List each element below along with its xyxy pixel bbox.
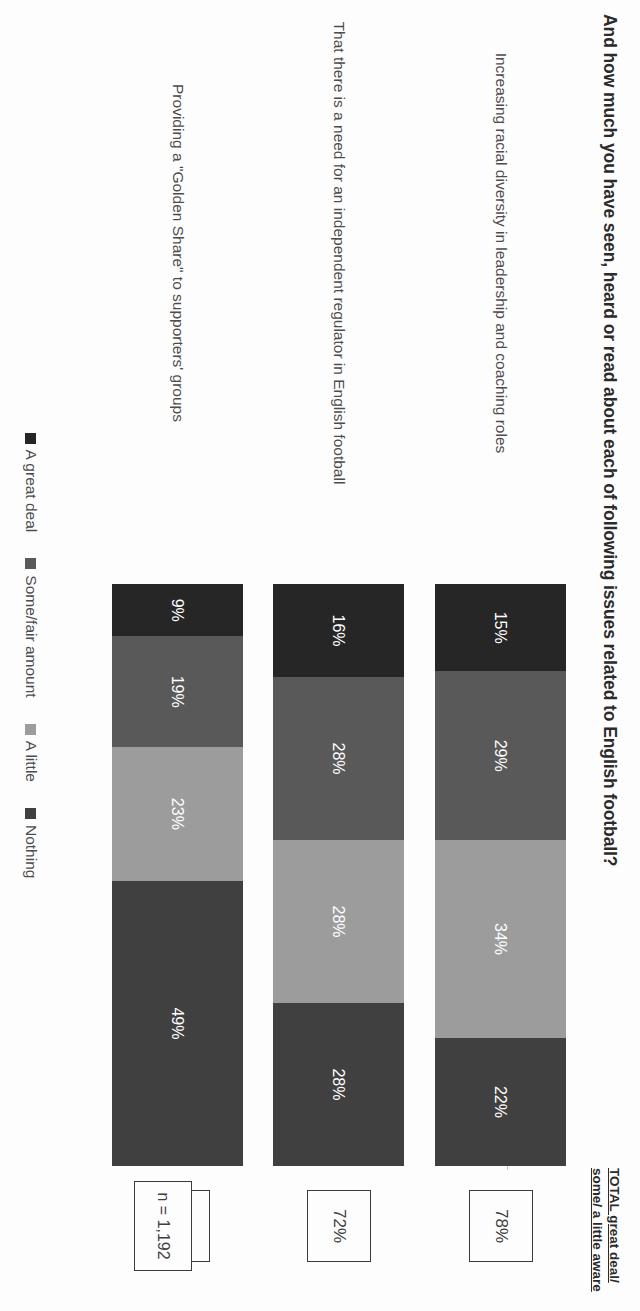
total-aware-box: 72% — [307, 1190, 371, 1262]
bar-segment-a-little[interactable]: 34% — [435, 840, 566, 1038]
chart-legend: A great deal Some/fair amount A little N… — [22, 0, 40, 1311]
legend-item-nothing[interactable]: Nothing — [22, 808, 40, 878]
bar-segment-value: 16% — [330, 615, 348, 647]
bar-segment-value: 28% — [330, 906, 348, 938]
bar-segment-value: 49% — [169, 1007, 187, 1039]
bar-segment-nothing[interactable]: 22% — [435, 1038, 566, 1166]
bar-segment-nothing[interactable]: 28% — [273, 1003, 404, 1166]
stacked-bar: 16% 28% 28% 28% — [273, 584, 404, 1166]
bar-segment-a-great-deal[interactable]: 9% — [112, 584, 243, 636]
bar-segment-a-little[interactable]: 28% — [273, 840, 404, 1003]
slide-canvas: And how much you have seen, heard or rea… — [0, 0, 640, 1311]
bar-segment-value: 28% — [330, 1068, 348, 1100]
bar-segment-value: 15% — [492, 612, 510, 644]
bar-segment-value: 34% — [492, 923, 510, 955]
legend-swatch-icon — [26, 808, 37, 819]
bar-segment-nothing[interactable]: 49% — [112, 881, 243, 1166]
category-label: Increasing racial diversity in leadershi… — [435, 8, 566, 508]
bar-segment-some-fair-amount[interactable]: 28% — [273, 677, 404, 840]
legend-item-some-fair-amount[interactable]: Some/fair amount — [22, 558, 40, 697]
page-title: And how much you have seen, heard or rea… — [599, 14, 620, 1164]
legend-item-a-little[interactable]: A little — [22, 724, 40, 782]
bar-segment-value: 28% — [330, 743, 348, 775]
table-row: Increasing racial diversity in leadershi… — [435, 0, 566, 1311]
chart-plot-area: Increasing racial diversity in leadershi… — [74, 0, 574, 1311]
total-column-header: TOTAL great deal/ some/ a little aware — [588, 1168, 622, 1296]
category-label: Providing a "Golden Share" to supporters… — [112, 8, 243, 508]
legend-label: A great deal — [22, 450, 40, 533]
bar-segment-value: 23% — [169, 798, 187, 830]
bar-segment-some-fair-amount[interactable]: 29% — [435, 671, 566, 840]
bar-segment-a-great-deal[interactable]: 15% — [435, 584, 566, 671]
bar-segment-a-great-deal[interactable]: 16% — [273, 584, 404, 677]
legend-swatch-icon — [26, 724, 37, 735]
category-label: That there is a need for an independent … — [273, 8, 404, 508]
bar-segment-value: 19% — [169, 676, 187, 708]
legend-swatch-icon — [26, 558, 37, 569]
legend-label: Some/fair amount — [22, 575, 40, 697]
bar-segment-value: 9% — [169, 599, 187, 622]
legend-label: Nothing — [22, 825, 40, 878]
stacked-bar: 9% 19% 23% 49% — [112, 584, 243, 1166]
bar-segment-a-little[interactable]: 23% — [112, 747, 243, 881]
bar-segment-value: 29% — [492, 740, 510, 772]
sample-size-box: n = 1,192 — [134, 1181, 192, 1271]
bar-segment-some-fair-amount[interactable]: 19% — [112, 636, 243, 747]
total-aware-box: 78% — [469, 1190, 533, 1262]
table-row: That there is a need for an independent … — [273, 0, 404, 1311]
stacked-bar: 15% 29% 34% 22% — [435, 584, 566, 1166]
legend-item-a-great-deal[interactable]: A great deal — [22, 433, 40, 533]
legend-label: A little — [22, 741, 40, 782]
bar-segment-value: 22% — [492, 1086, 510, 1118]
legend-swatch-icon — [26, 433, 37, 444]
table-row: Providing a "Golden Share" to supporters… — [112, 0, 243, 1311]
